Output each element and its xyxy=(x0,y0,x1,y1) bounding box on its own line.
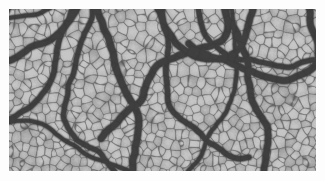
texture-figure: Grayscale macro photograph of elephant h… xyxy=(9,9,316,171)
elephant-skin-texture-image xyxy=(9,9,316,171)
page-root: Grayscale macro photograph of elephant h… xyxy=(0,0,325,181)
